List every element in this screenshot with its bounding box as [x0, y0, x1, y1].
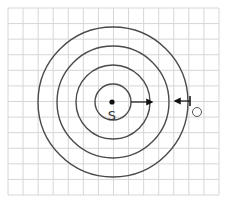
observer-marker — [193, 108, 202, 117]
source-label: S — [108, 108, 116, 123]
source-dot — [109, 99, 114, 104]
doppler-diagram: S — [0, 0, 226, 208]
